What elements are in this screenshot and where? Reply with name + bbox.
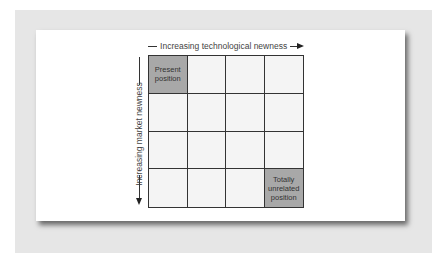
axis-line [148, 46, 157, 47]
matrix-cell [265, 94, 304, 132]
matrix-cell [149, 94, 188, 132]
matrix-cell [226, 132, 265, 170]
matrix-cell [188, 169, 227, 207]
matrix-cell [188, 56, 227, 94]
top-axis-label: Increasing technological newness [157, 41, 290, 51]
axis-line [290, 46, 297, 47]
matrix-cell [188, 132, 227, 170]
matrix-cell [265, 56, 304, 94]
matrix-cell: Totally unrelated position [265, 169, 304, 207]
matrix-cell: Present position [149, 56, 188, 94]
matrix-cell [149, 132, 188, 170]
arrow-down-icon [136, 198, 142, 205]
matrix-cell [226, 56, 265, 94]
matrix-cell [226, 94, 265, 132]
matrix-cell [149, 169, 188, 207]
axis-line [139, 175, 140, 200]
matrix-cell [265, 132, 304, 170]
top-axis: Increasing technological newness [148, 40, 304, 52]
matrix-cell [188, 94, 227, 132]
matrix-cell [226, 169, 265, 207]
newness-matrix: Present positionTotally unrelated positi… [148, 55, 304, 208]
arrow-right-icon [297, 43, 304, 49]
left-axis: Increasing market newness [128, 55, 148, 208]
